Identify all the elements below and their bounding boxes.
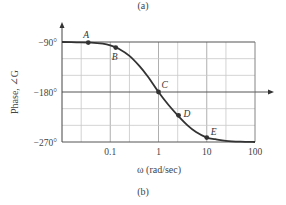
tick-labels: 0.1110100−90°−180°−270° (34, 38, 263, 158)
x-tick-label: 100 (248, 147, 263, 157)
annotation-label: C (162, 80, 169, 90)
y-axis-label: Phase, ∠G (9, 70, 20, 114)
annotation-label: E (210, 127, 217, 137)
annotation-label: B (112, 52, 118, 62)
annotation-label: A (82, 30, 89, 40)
annotation-point-d (176, 113, 181, 118)
annotation-points: ABCDE (82, 30, 216, 140)
annotation-label: D (183, 109, 191, 119)
annotation-point-a (86, 40, 91, 45)
x-axis-label: ω (rad/sec) (137, 164, 181, 176)
x-tick-label: 0.1 (104, 147, 116, 157)
y-tick-label: −270° (34, 138, 58, 148)
y-tick-label: −180° (34, 88, 58, 98)
x-tick-label: 1 (156, 147, 161, 157)
annotation-point-b (113, 45, 118, 50)
annotation-point-c (156, 90, 161, 95)
phase-plot: 0.1110100−90°−180°−270° ABCDE ω (rad/sec… (0, 0, 286, 205)
annotation-point-e (204, 135, 209, 140)
y-tick-label: −90° (38, 38, 57, 48)
x-axis-arrow-icon (268, 90, 274, 95)
y-axis-arrow-icon (60, 22, 65, 28)
figure-caption-b: (b) (0, 186, 286, 197)
x-tick-label: 10 (202, 147, 212, 157)
